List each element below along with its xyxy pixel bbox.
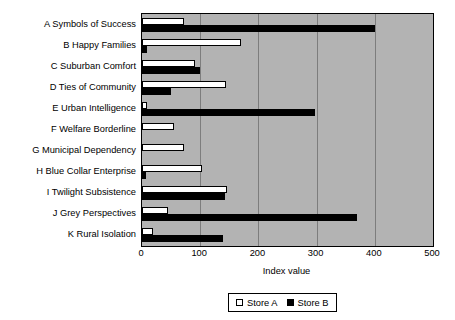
bar-store-b bbox=[142, 67, 200, 74]
x-tick-label: 100 bbox=[191, 248, 207, 258]
bar-store-b bbox=[142, 109, 315, 116]
legend-entry: Store B bbox=[287, 298, 329, 308]
plot-area bbox=[141, 13, 434, 247]
chart-legend: Store AStore B bbox=[228, 293, 337, 312]
category-label: J Grey Perspectives bbox=[53, 208, 136, 218]
category-label: I Twilight Subsistence bbox=[47, 187, 136, 197]
legend-label: Store B bbox=[298, 298, 329, 308]
bar-store-b bbox=[142, 88, 171, 95]
bar-store-a bbox=[142, 39, 241, 46]
category-label: A Symbols of Success bbox=[44, 19, 136, 29]
bar-group bbox=[142, 56, 433, 77]
bar-store-a bbox=[142, 102, 147, 109]
bar-group bbox=[142, 141, 433, 162]
bar-store-a bbox=[142, 81, 226, 88]
category-label: B Happy Families bbox=[63, 40, 136, 50]
x-tick-label: 300 bbox=[308, 248, 324, 258]
bar-group bbox=[142, 14, 433, 35]
x-tick-label: 200 bbox=[250, 248, 266, 258]
bar-store-a bbox=[142, 186, 227, 193]
bar-store-a bbox=[142, 123, 174, 130]
bar-store-a bbox=[142, 60, 195, 67]
bar-group bbox=[142, 98, 433, 119]
x-tick-label: 500 bbox=[424, 248, 440, 258]
bar-group bbox=[142, 183, 433, 204]
bar-store-a bbox=[142, 144, 184, 151]
bar-group bbox=[142, 77, 433, 98]
bar-group bbox=[142, 35, 433, 56]
bar-group bbox=[142, 225, 433, 246]
bar-chart: A Symbols of SuccessB Happy FamiliesC Su… bbox=[0, 0, 455, 320]
bar-store-b bbox=[142, 214, 357, 221]
legend-swatch-icon bbox=[287, 299, 294, 306]
bar-store-a bbox=[142, 18, 184, 25]
bar-store-b bbox=[142, 25, 375, 32]
x-tick-label: 0 bbox=[138, 248, 143, 258]
category-label: H Blue Collar Enterprise bbox=[36, 166, 136, 176]
category-label: C Suburban Comfort bbox=[51, 61, 136, 71]
x-axis-title: Index value bbox=[141, 266, 432, 276]
x-axis-ticks: 0100200300400500 bbox=[141, 248, 432, 262]
category-axis: A Symbols of SuccessB Happy FamiliesC Su… bbox=[0, 13, 139, 245]
bar-group bbox=[142, 204, 433, 225]
x-tick-label: 400 bbox=[366, 248, 382, 258]
bar-store-b bbox=[142, 46, 147, 53]
legend-label: Store A bbox=[247, 298, 278, 308]
category-label: G Municipal Dependency bbox=[32, 145, 136, 155]
legend-swatch-icon bbox=[236, 299, 243, 306]
bar-group bbox=[142, 162, 433, 183]
bar-store-b bbox=[142, 235, 223, 242]
category-label: K Rural Isolation bbox=[68, 229, 136, 239]
category-label: E Urban Intelligence bbox=[52, 103, 136, 113]
bar-group bbox=[142, 119, 433, 140]
legend-entry: Store A bbox=[236, 298, 278, 308]
bar-store-b bbox=[142, 172, 146, 179]
bar-store-b bbox=[142, 193, 225, 200]
bar-store-a bbox=[142, 165, 202, 172]
category-label: F Welfare Borderline bbox=[51, 124, 136, 134]
category-label: D Ties of Community bbox=[50, 82, 136, 92]
bar-store-a bbox=[142, 228, 153, 235]
bar-store-a bbox=[142, 207, 168, 214]
